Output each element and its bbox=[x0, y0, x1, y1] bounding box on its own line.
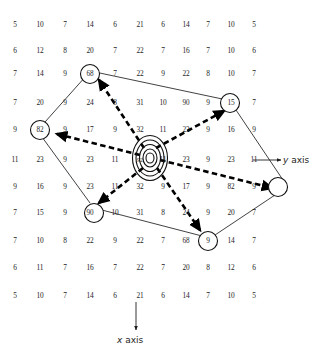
grid-value-r10-c0: 5 bbox=[4, 291, 26, 301]
grid-value-r0-c9: 10 bbox=[220, 20, 242, 30]
grid-value-r6-c0: 9 bbox=[4, 182, 26, 192]
grid-value-r7-c10: 7 bbox=[243, 208, 265, 218]
grid-value-r2-c7: 22 bbox=[175, 69, 197, 79]
grid-value-r4-c7: 23 bbox=[175, 125, 197, 135]
grid-value-r7-c0: 7 bbox=[4, 208, 26, 218]
grid-value-r7-c6: 8 bbox=[152, 208, 174, 218]
grid-value-r5-c7: 23 bbox=[175, 155, 197, 165]
grid-value-r0-c10: 5 bbox=[243, 20, 265, 30]
grid-value-r2-c9: 10 bbox=[220, 69, 242, 79]
grid-value-r10-c1: 10 bbox=[29, 291, 51, 301]
grid-value-r0-c0: 5 bbox=[4, 20, 26, 30]
center-peak-value: 92 bbox=[129, 155, 151, 165]
node-value-bottom-right: 68 bbox=[175, 236, 197, 246]
y-axis-label-symbol: y bbox=[283, 155, 288, 165]
y-axis-label: y axis bbox=[283, 155, 309, 165]
grid-value-r9-c4: 7 bbox=[104, 263, 126, 273]
grid-value-r9-c9: 12 bbox=[220, 263, 242, 273]
x-axis-label-symbol: x bbox=[117, 335, 122, 345]
grid-value-r4-c6: 11 bbox=[152, 125, 174, 135]
grid-value-r7-c5: 31 bbox=[129, 208, 151, 218]
grid-value-r5-c10: 11 bbox=[243, 155, 265, 165]
grid-value-r1-c2: 8 bbox=[54, 46, 76, 56]
grid-value-r6-c7: 17 bbox=[175, 182, 197, 192]
grid-value-r9-c1: 11 bbox=[29, 263, 51, 273]
grid-value-r1-c10: 6 bbox=[243, 46, 265, 56]
grid-value-r8-c10: 7 bbox=[243, 236, 265, 246]
grid-value-r9-c5: 22 bbox=[129, 263, 151, 273]
grid-value-r8-c5: 22 bbox=[129, 236, 151, 246]
grid-value-r4-c3: 17 bbox=[79, 125, 101, 135]
grid-value-r2-c4: 7 bbox=[104, 69, 126, 79]
value-grid: 5107146216147105612820722716710671496872… bbox=[0, 0, 332, 363]
figure-canvas: 5107146216147105612820722716710671496872… bbox=[0, 0, 332, 363]
grid-value-r3-c3: 24 bbox=[79, 98, 101, 108]
grid-value-r10-c5: 21 bbox=[129, 291, 151, 301]
grid-value-r4-c10: 9 bbox=[243, 125, 265, 135]
y-axis-label-text: axis bbox=[291, 155, 309, 165]
grid-value-r4-c5: 32 bbox=[129, 125, 151, 135]
grid-value-r8-c6: 7 bbox=[152, 236, 174, 246]
grid-value-r3-c9: 15 bbox=[220, 98, 242, 108]
grid-value-r2-c2: 9 bbox=[54, 69, 76, 79]
grid-value-r10-c7: 14 bbox=[175, 291, 197, 301]
node-value-right: 82 bbox=[220, 182, 242, 192]
grid-value-r0-c4: 6 bbox=[104, 20, 126, 30]
x-axis-label: x axis bbox=[117, 335, 143, 345]
grid-value-r10-c6: 6 bbox=[152, 291, 174, 301]
x-axis-label-text: axis bbox=[125, 335, 143, 345]
grid-value-r4-c2: 9 bbox=[54, 125, 76, 135]
grid-value-r7-c2: 9 bbox=[54, 208, 76, 218]
grid-value-r6-c5: 32 bbox=[129, 182, 151, 192]
grid-value-r1-c0: 6 bbox=[4, 46, 26, 56]
grid-value-r9-c3: 16 bbox=[79, 263, 101, 273]
grid-value-r3-c2: 9 bbox=[54, 98, 76, 108]
grid-value-r6-c3: 23 bbox=[79, 182, 101, 192]
grid-value-r6-c4: 11 bbox=[104, 182, 126, 192]
grid-value-r10-c3: 14 bbox=[79, 291, 101, 301]
grid-value-r8-c2: 8 bbox=[54, 236, 76, 246]
grid-value-r7-c7: 24 bbox=[175, 208, 197, 218]
grid-value-r2-c8: 8 bbox=[197, 69, 219, 79]
grid-value-r1-c5: 22 bbox=[129, 46, 151, 56]
grid-value-r1-c4: 7 bbox=[104, 46, 126, 56]
grid-value-r3-c1: 20 bbox=[29, 98, 51, 108]
grid-value-r8-c0: 7 bbox=[4, 236, 26, 246]
grid-value-r9-c6: 7 bbox=[152, 263, 174, 273]
grid-value-r1-c1: 12 bbox=[29, 46, 51, 56]
node-value-top-right: 90 bbox=[175, 98, 197, 108]
grid-value-r5-c6: 11 bbox=[152, 155, 174, 165]
grid-value-r10-c10: 5 bbox=[243, 291, 265, 301]
grid-value-r0-c1: 10 bbox=[29, 20, 51, 30]
grid-value-r8-c4: 9 bbox=[104, 236, 126, 246]
grid-value-r0-c8: 7 bbox=[197, 20, 219, 30]
grid-value-r5-c2: 9 bbox=[54, 155, 76, 165]
grid-value-r9-c8: 8 bbox=[197, 263, 219, 273]
grid-value-r5-c4: 11 bbox=[104, 155, 126, 165]
grid-value-r5-c9: 23 bbox=[220, 155, 242, 165]
grid-value-r4-c9: 16 bbox=[220, 125, 242, 135]
grid-value-r10-c8: 7 bbox=[197, 291, 219, 301]
grid-value-r10-c4: 6 bbox=[104, 291, 126, 301]
node-value-top-left: 68 bbox=[79, 69, 101, 79]
grid-value-r8-c1: 10 bbox=[29, 236, 51, 246]
grid-value-r3-c8: 9 bbox=[197, 98, 219, 108]
grid-value-r10-c2: 7 bbox=[54, 291, 76, 301]
grid-value-r3-c10: 7 bbox=[243, 98, 265, 108]
grid-value-r1-c7: 16 bbox=[175, 46, 197, 56]
grid-value-r4-c4: 9 bbox=[104, 125, 126, 135]
grid-value-r3-c4: 8 bbox=[104, 98, 126, 108]
grid-value-r5-c0: 11 bbox=[4, 155, 26, 165]
grid-value-r5-c3: 23 bbox=[79, 155, 101, 165]
grid-value-r6-c6: 9 bbox=[152, 182, 174, 192]
grid-value-r0-c2: 7 bbox=[54, 20, 76, 30]
grid-value-r2-c5: 22 bbox=[129, 69, 151, 79]
grid-value-r1-c3: 20 bbox=[79, 46, 101, 56]
grid-value-r8-c3: 22 bbox=[79, 236, 101, 246]
grid-value-r2-c6: 9 bbox=[152, 69, 174, 79]
grid-value-r2-c1: 14 bbox=[29, 69, 51, 79]
grid-value-r2-c0: 7 bbox=[4, 69, 26, 79]
grid-value-r5-c8: 9 bbox=[197, 155, 219, 165]
grid-value-r0-c7: 14 bbox=[175, 20, 197, 30]
grid-value-r7-c4: 10 bbox=[104, 208, 126, 218]
